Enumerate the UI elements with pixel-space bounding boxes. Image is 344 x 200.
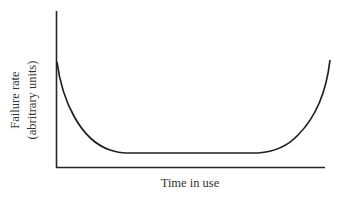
y-axis-label-line2: (abritrary units) — [25, 61, 39, 140]
x-axis-label: Time in use — [161, 176, 220, 190]
failure-rate-curve — [57, 60, 330, 153]
bathtub-failure-rate-chart: Time in use Failure rate (abritrary unit… — [0, 0, 344, 200]
y-axis-label-line1: Failure rate — [8, 71, 22, 129]
